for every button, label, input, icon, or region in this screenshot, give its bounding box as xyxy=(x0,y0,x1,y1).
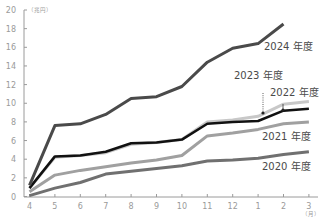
y-tick-label: 12 xyxy=(6,81,16,90)
x-tick-label: 5 xyxy=(52,202,57,211)
x-tick-label: 6 xyxy=(78,202,83,211)
annotation-2022-dot xyxy=(281,108,284,111)
y-tick-label: 6 xyxy=(11,137,16,146)
x-tick-label: 1 xyxy=(256,202,261,211)
x-tick-label: 7 xyxy=(103,202,108,211)
y-tick-label: 16 xyxy=(6,43,16,52)
series-label-2020: 2020 年度 xyxy=(262,160,311,172)
line-chart: 02468101214161820 （兆円） 456789101112123 （… xyxy=(0,0,322,219)
x-tick-label: 8 xyxy=(129,202,134,211)
y-axis: 02468101214161820 （兆円） xyxy=(6,6,52,202)
x-tick-label: 9 xyxy=(154,202,159,211)
y-tick-label: 4 xyxy=(11,155,16,164)
y-tick-label: 0 xyxy=(11,193,16,202)
y-tick-label: 18 xyxy=(6,25,16,34)
y-tick-label: 20 xyxy=(6,6,16,15)
x-tick-label: 12 xyxy=(228,202,238,211)
x-tick-label: 10 xyxy=(177,202,187,211)
y-tick-label: 8 xyxy=(11,118,16,127)
x-tick-label: 3 xyxy=(306,202,311,211)
y-tick-label: 10 xyxy=(6,99,16,108)
series-label-2024: 2024 年度 xyxy=(264,40,313,52)
x-tick-label: 11 xyxy=(202,202,212,211)
x-tick-label: 2 xyxy=(281,202,286,211)
series-line-2023 xyxy=(30,101,309,188)
series-label-2022: 2022 年度 xyxy=(270,86,319,98)
x-tick-label: 4 xyxy=(27,202,32,211)
x-axis: 456789101112123 （月） xyxy=(24,194,320,218)
y-axis-unit: （兆円） xyxy=(28,6,52,14)
series-label-2023: 2023 年度 xyxy=(234,69,283,81)
y-tick-label: 2 xyxy=(11,174,16,183)
y-tick-label: 14 xyxy=(6,62,16,71)
series-line-2022 xyxy=(30,109,309,188)
annotation-2023-dot xyxy=(261,111,264,114)
series-label-2021: 2021 年度 xyxy=(262,130,311,142)
x-axis-unit: （月） xyxy=(302,211,320,218)
